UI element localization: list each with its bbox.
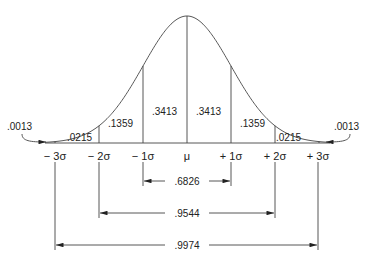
area-minus3-minus2: .0215 — [67, 132, 92, 143]
area-right-tail: .0013 — [334, 121, 359, 132]
area-plus1-plus2: .1359 — [240, 118, 265, 129]
area-mu-plus1: .3413 — [196, 106, 221, 117]
area-left-tail: .0013 — [7, 121, 32, 132]
axis-label-plus2sigma: + 2σ — [264, 150, 287, 162]
interval-1sigma: .6826 — [144, 176, 230, 187]
right-tail-arrow — [326, 134, 350, 142]
region-area-labels: .0013 .0215 .1359 .3413 .3413 .1359 .021… — [7, 106, 359, 143]
interval-3sigma: .9974 — [56, 240, 317, 251]
left-tail-arrow — [22, 134, 46, 142]
interval-label-9544: .9544 — [174, 208, 199, 219]
axis-label-mu: μ — [184, 150, 190, 162]
interval-label-6826: .6826 — [174, 176, 199, 187]
area-plus2-plus3: .0215 — [276, 132, 301, 143]
axis-label-plus1sigma: + 1σ — [220, 150, 243, 162]
axis-label-minus3sigma: − 3σ — [44, 150, 67, 162]
axis-labels: − 3σ − 2σ − 1σ μ + 1σ + 2σ + 3σ — [44, 150, 330, 162]
bell-curve — [45, 16, 330, 142]
sigma-dividers — [55, 16, 319, 143]
area-minus1-mu: .3413 — [152, 106, 177, 117]
area-minus2-minus1: .1359 — [108, 118, 133, 129]
interval-2sigma: .9544 — [100, 208, 274, 219]
axis-label-plus3sigma: + 3σ — [307, 150, 330, 162]
axis-label-minus1sigma: − 1σ — [132, 150, 155, 162]
axis-label-minus2sigma: − 2σ — [88, 150, 111, 162]
interval-label-9974: .9974 — [174, 240, 199, 251]
normal-distribution-diagram: − 3σ − 2σ − 1σ μ + 1σ + 2σ + 3σ .0013 .0… — [0, 0, 373, 266]
